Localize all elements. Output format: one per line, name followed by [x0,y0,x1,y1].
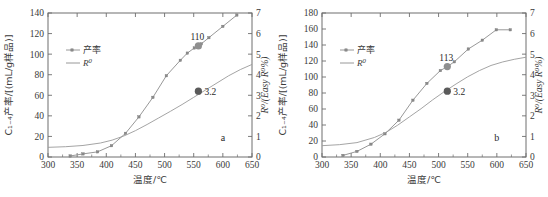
y-tick-label-left: 160 [304,24,319,34]
data-point-marker [236,14,238,16]
y-tick-label-right: 0 [256,152,261,162]
chart-svg-b: 3003504004505005506006500204060801001201… [274,0,548,197]
data-point-marker [222,25,224,27]
yield-highlight-label: 113 [439,53,453,63]
x-tick-label: 450 [402,160,417,170]
y-tick-label-left: 20 [309,136,319,146]
y-tick-label-left: 100 [304,72,319,82]
x-tick-label: 400 [99,160,114,170]
legend-marker-yield [71,49,73,51]
y-tick-label-right: 6 [530,29,535,39]
figure-container: 3003504004505005506006500204060801001201… [0,0,548,197]
data-point-marker [110,144,112,146]
ro-highlight-dot [444,88,451,95]
x-tick-label: 450 [128,160,143,170]
y-tick-label-left: 120 [30,29,45,39]
data-point-marker [481,39,483,41]
y-tick-label-left: 140 [304,40,319,50]
data-point-marker [165,75,167,77]
chart-panel-a: 3003504004505005506006500204060801001201… [0,0,274,197]
data-point-marker [509,29,511,31]
x-tick-label: 500 [157,160,172,170]
y-axis-title-left: C₁₋₄产率/[(mL/g样品)] [3,34,14,135]
data-point-marker [426,82,428,84]
legend-label-yield: 产率 [357,44,375,55]
data-point-marker [453,61,455,63]
yield-highlight-label: 110 [190,32,204,42]
ro-highlight-dot [195,88,202,95]
ro-highlight-label: 3.2 [453,87,465,97]
y-tick-label-left: 100 [30,50,45,60]
y-tick-label-left: 40 [309,120,319,130]
y-tick-label-left: 0 [39,152,44,162]
legend-label-ro: R⁰ [356,58,366,68]
data-point-marker [152,96,154,98]
data-point-marker [398,119,400,121]
x-tick-label: 600 [216,160,231,170]
y-tick-label-left: 180 [304,8,319,18]
x-axis-title: 温度/℃ [407,174,441,185]
data-point-marker [138,116,140,118]
data-point-marker [124,132,126,134]
y-axis-title-right: R⁰/(Easy R⁰%) [260,57,271,115]
y-tick-label-right: 7 [256,8,261,18]
data-point-marker [356,150,358,152]
data-point-marker [342,154,344,156]
data-point-marker [467,48,469,50]
data-point-marker [186,52,188,54]
legend-label-yield: 产率 [83,44,101,55]
x-tick-label: 500 [431,160,446,170]
y-axis-title-left: C₁₋₄产率/[(mL/g样品)] [277,34,288,135]
y-tick-label-left: 60 [35,91,45,101]
x-tick-label: 350 [344,160,359,170]
y-axis-title-right: R⁰/(Easy R⁰%) [534,57,545,115]
chart-svg-a: 3003504004505005506006500204060801001201… [0,0,274,197]
x-tick-label: 600 [490,160,505,170]
y-tick-label-right: 7 [530,8,535,18]
y-tick-label-left: 60 [309,104,319,114]
y-tick-label-left: 140 [30,8,45,18]
x-tick-label: 350 [70,160,85,170]
data-point-marker [370,143,372,145]
data-point-marker [208,36,210,38]
y-tick-label-right: 1 [530,132,535,142]
y-tick-label-right: 6 [256,29,261,39]
y-tick-label-left: 0 [313,152,318,162]
data-point-marker [69,155,71,157]
x-axis-title: 温度/℃ [133,174,167,185]
legend-label-ro: R⁰ [82,58,92,68]
y-tick-label-left: 80 [309,88,319,98]
data-point-marker [412,99,414,101]
x-tick-label: 550 [461,160,476,170]
chart-panel-b: 3003504004505005506006500204060801001201… [274,0,548,197]
yield-highlight-dot [195,42,202,49]
panel-letter-a: a [221,132,226,143]
data-point-marker [495,29,497,31]
y-tick-label-right: 1 [256,132,261,142]
data-point-marker [96,151,98,153]
legend-marker-yield [345,49,347,51]
y-tick-label-left: 40 [35,111,45,121]
panel-letter-b: b [494,132,499,143]
y-tick-label-left: 120 [304,56,319,66]
y-tick-label-left: 80 [35,70,45,80]
data-point-marker [179,59,181,61]
data-point-marker [82,153,84,155]
x-tick-label: 550 [187,160,202,170]
x-tick-label: 400 [373,160,388,170]
y-tick-label-right: 0 [530,152,535,162]
ro-highlight-label: 3.2 [204,87,216,97]
series-line-yield [70,15,237,156]
data-point-marker [439,69,441,71]
y-tick-label-left: 20 [35,132,45,142]
yield-highlight-dot [444,63,451,70]
